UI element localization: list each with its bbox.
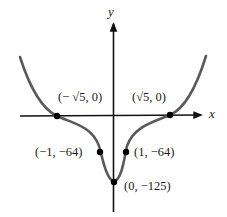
- point-pos-root: [167, 112, 173, 118]
- function-graph: [0, 0, 227, 217]
- label-pos-one: (1, −64): [134, 146, 174, 159]
- y-axis-label: y: [108, 5, 114, 18]
- point-pos-one: [123, 149, 129, 155]
- label-neg-root: (− √5, 0): [58, 91, 102, 104]
- point-neg-one: [97, 149, 103, 155]
- x-axis: [20, 115, 201, 116]
- label-minimum: (0, −125): [124, 180, 171, 193]
- label-neg-one: (−1, −64): [35, 146, 82, 159]
- point-neg-root: [54, 113, 60, 119]
- point-minimum: [111, 179, 117, 185]
- label-pos-root: (√5, 0): [132, 91, 166, 104]
- x-axis-label: x: [209, 107, 215, 120]
